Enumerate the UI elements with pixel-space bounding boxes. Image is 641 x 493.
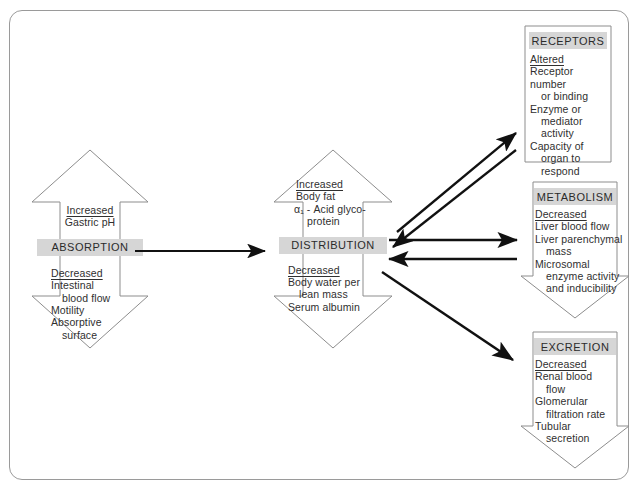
receptors-item-7: respond [530,165,606,177]
receptors-item-3: mediator [530,115,606,127]
receptors-item-2: Enzyme or [530,103,606,115]
receptors-block: RECEPTORS Altered Receptor number or bin… [523,24,613,164]
metabolism-change-label: Decreased [535,208,587,220]
metabolism-item-0: Liver blood flow [535,220,631,232]
metabolism-item-2: mass [535,245,631,257]
absorption-decreased-item-3: Absorptive [51,316,150,328]
absorption-decreased-item-2: Motility [51,304,150,316]
distribution-increased-item-1: α₁ - Acid glyco- [294,203,394,215]
excretion-item-0: Renal blood [535,370,631,382]
metabolism-item-3: Microsomal [535,258,631,270]
metabolism-item-1: Liver parenchymal [535,233,631,245]
receptors-item-0: Receptor number [530,65,606,90]
absorption-decreased-item-0: Intestinal [51,279,150,291]
distribution-decreased-item-2: Serum albumin [288,301,394,313]
metabolism-item-5: and inducibility [535,282,631,294]
distribution-decreased-label: Decreased [288,264,340,276]
absorption-increased-label: Increased [66,204,113,216]
metabolism-header: METABOLISM [534,188,616,205]
receptors-item-6: organ to [530,152,606,164]
distribution-increased-item-0: Body fat [296,190,394,202]
receptors-change-label: Altered [530,53,564,65]
excretion-item-3: filtration rate [535,408,631,420]
receptors-item-1: or binding [530,90,606,102]
absorption-decreased-item-1: blood flow [51,292,150,304]
excretion-header: EXCRETION [534,338,616,355]
receptors-item-5: Capacity of [530,140,606,152]
excretion-change-label: Decreased [535,358,587,370]
distribution-increased-label: Increased [296,178,343,190]
distribution-header: DISTRIBUTION [279,237,387,254]
receptors-item-4: activity [530,127,606,139]
absorption-increased-item-0: Gastric pH [30,216,150,228]
excretion-item-4: Tubular [535,420,631,432]
distribution-decreased-item-0: Body water per [288,276,394,288]
distribution-increased-item-2: protein [296,215,394,227]
absorption-block: Increased Gastric pH ABSORPTION Decrease… [30,148,150,350]
excretion-item-5: secretion [535,432,631,444]
absorption-decreased-item-4: surface [51,329,150,341]
diagram-canvas: Increased Gastric pH ABSORPTION Decrease… [0,0,641,493]
metabolism-item-4: enzyme activity [535,270,631,282]
excretion-item-1: flow [535,383,631,395]
distribution-block: Increased Body fat α₁ - Acid glyco- prot… [272,148,394,350]
excretion-block: EXCRETION Decreased Renal blood flow Glo… [519,330,631,470]
absorption-header: ABSORPTION [37,239,143,256]
excretion-item-2: Glomerular [535,395,631,407]
distribution-decreased-item-1: lean mass [288,288,394,300]
absorption-decreased-label: Decreased [51,267,103,279]
metabolism-block: METABOLISM Decreased Liver blood flow Li… [519,180,631,320]
receptors-header: RECEPTORS [529,32,607,49]
